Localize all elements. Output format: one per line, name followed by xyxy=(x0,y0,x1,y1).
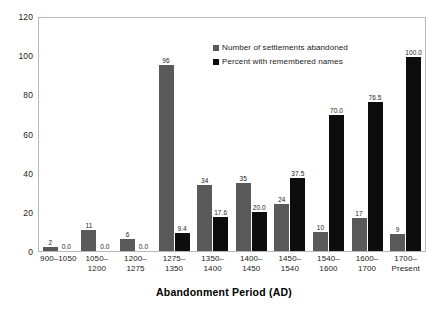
bar-slot: 0.0 xyxy=(59,18,74,251)
legend: Number of settlements abandonedPercent w… xyxy=(213,43,348,66)
bar-value-label: 6 xyxy=(126,231,130,238)
x-axis: 900–10501050– 12001200– 12751275– 135013… xyxy=(39,254,425,282)
bar: 6 xyxy=(120,239,135,251)
x-axis-tick: 1600– 1700 xyxy=(348,254,387,282)
x-axis-tick: 1275– 1350 xyxy=(155,254,194,282)
bar-slot: 9.4 xyxy=(175,18,190,251)
legend-item: Percent with remembered names xyxy=(213,57,348,66)
bar-slot: 0.0 xyxy=(97,18,112,251)
bar-value-label: 76.5 xyxy=(369,94,382,101)
bar: 10 xyxy=(313,232,328,251)
bar-slot: 6 xyxy=(120,18,135,251)
bar: 34 xyxy=(197,185,212,251)
bar-slot: 0.0 xyxy=(136,18,151,251)
bar: 96 xyxy=(159,65,174,251)
bar: 100.0 xyxy=(406,57,421,251)
bar-value-label: 24 xyxy=(278,196,285,203)
bar: 24 xyxy=(274,204,289,251)
legend-item: Number of settlements abandoned xyxy=(213,43,348,52)
bar: 76.5 xyxy=(368,102,383,251)
bar-value-label: 20.0 xyxy=(253,204,266,211)
x-axis-tick: 1400– 1450 xyxy=(232,254,271,282)
bar-value-label: 0.0 xyxy=(62,243,71,250)
legend-swatch-icon xyxy=(213,59,219,65)
bar-group: 9100.0 xyxy=(386,18,425,251)
bar: 9.4 xyxy=(175,233,190,251)
bar-chart: 020406080100120 20.0110.060.0969.43417.6… xyxy=(0,0,448,314)
bar: 37.5 xyxy=(290,178,305,251)
bar-value-label: 9 xyxy=(396,226,400,233)
legend-label: Number of settlements abandoned xyxy=(222,43,348,52)
bar-value-label: 0.0 xyxy=(100,243,109,250)
bar-value-label: 96 xyxy=(162,57,169,64)
legend-swatch-icon xyxy=(213,45,219,51)
bar-slot: 11 xyxy=(81,18,96,251)
bar-slot: 17 xyxy=(352,18,367,251)
bar-value-label: 2 xyxy=(48,239,52,246)
y-axis-tick: 40 xyxy=(23,169,33,179)
x-axis-tick: 1450– 1540 xyxy=(271,254,310,282)
bar: 20.0 xyxy=(252,212,267,251)
bar-slot: 100.0 xyxy=(406,18,421,251)
bar-value-label: 10 xyxy=(317,224,324,231)
y-axis-tick: 100 xyxy=(19,51,33,61)
bar-slot: 96 xyxy=(159,18,174,251)
bar: 2 xyxy=(43,247,58,251)
bar-slot: 9 xyxy=(390,18,405,251)
bar-slot: 2 xyxy=(43,18,58,251)
bar-group: 110.0 xyxy=(78,18,117,251)
bar-value-label: 11 xyxy=(85,222,92,229)
y-axis-tick: 20 xyxy=(23,208,33,218)
bar-group: 969.4 xyxy=(155,18,194,251)
bar: 17.6 xyxy=(213,217,228,251)
bar: 70.0 xyxy=(329,115,344,251)
bar-value-label: 17 xyxy=(355,210,362,217)
x-axis-tick: 1540– 1600 xyxy=(309,254,348,282)
x-axis-tick: 1700– Present xyxy=(386,254,425,282)
bar-value-label: 70.0 xyxy=(330,107,343,114)
y-axis-tick: 80 xyxy=(23,90,33,100)
bar: 35 xyxy=(236,183,251,251)
x-axis-tick: 1350– 1400 xyxy=(193,254,232,282)
y-axis-tick: 60 xyxy=(23,130,33,140)
x-axis-tick: 1050– 1200 xyxy=(78,254,117,282)
y-axis: 020406080100120 xyxy=(0,17,38,252)
bar-group: 20.0 xyxy=(39,18,78,251)
x-axis-title: Abandonment Period (AD) xyxy=(0,286,448,298)
x-axis-tick: 900–1050 xyxy=(39,254,78,282)
bar-group: 60.0 xyxy=(116,18,155,251)
bar-value-label: 35 xyxy=(240,175,247,182)
y-axis-tick: 0 xyxy=(28,247,33,257)
legend-label: Percent with remembered names xyxy=(222,57,343,66)
bar-value-label: 34 xyxy=(201,177,208,184)
bar: 11 xyxy=(81,230,96,251)
bar-slot: 76.5 xyxy=(368,18,383,251)
x-axis-tick: 1200– 1275 xyxy=(116,254,155,282)
bar: 9 xyxy=(390,234,405,251)
bar-value-label: 17.6 xyxy=(214,209,227,216)
bar-value-label: 9.4 xyxy=(177,225,186,232)
bar: 17 xyxy=(352,218,367,251)
y-axis-tick: 120 xyxy=(19,12,33,22)
bar-group: 1776.5 xyxy=(348,18,387,251)
bar-slot: 34 xyxy=(197,18,212,251)
bar-value-label: 37.5 xyxy=(291,170,304,177)
bar-value-label: 0.0 xyxy=(139,243,148,250)
bar-value-label: 100.0 xyxy=(405,49,422,56)
